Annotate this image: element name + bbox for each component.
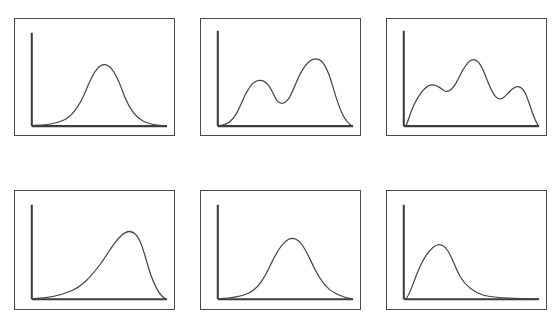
- distribution-curve-3: [406, 60, 538, 126]
- distribution-curve-6: [406, 245, 538, 299]
- panel-bimodal: [200, 18, 361, 136]
- panel-plot-1: [15, 19, 174, 135]
- panel-symmetric-bell-1: [14, 18, 175, 136]
- panel-plot-3: [387, 19, 546, 135]
- panel-plot-2: [201, 19, 360, 135]
- panel-plot-5: [201, 191, 360, 309]
- distribution-shapes-figure: [0, 0, 558, 334]
- panel-grid: [0, 0, 558, 334]
- panel-symmetric-bell-2: [200, 190, 361, 310]
- panel-plot-6: [387, 191, 546, 309]
- panel-plot-4: [15, 191, 174, 309]
- panel-multimodal: [386, 18, 547, 136]
- panel-left-skewed: [14, 190, 175, 310]
- distribution-curve-4: [34, 232, 166, 299]
- distribution-curve-5: [220, 238, 352, 298]
- distribution-curve-2: [220, 59, 352, 126]
- distribution-curve-1: [34, 65, 166, 126]
- panel-right-skewed: [386, 190, 547, 310]
